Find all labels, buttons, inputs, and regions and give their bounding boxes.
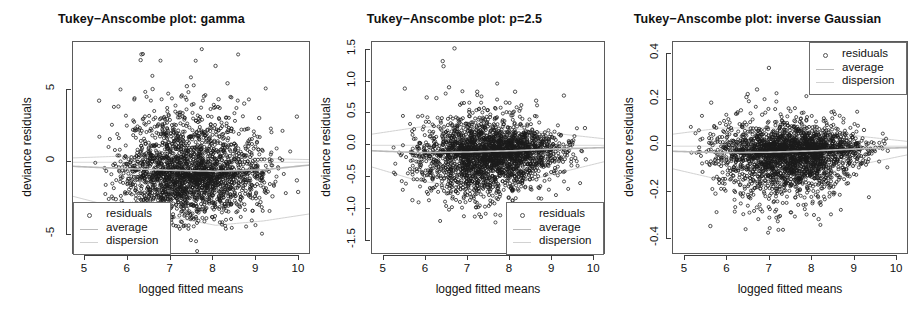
legend-label-dispersion: dispersion [842,74,894,88]
x-tick-label: 7 [452,262,482,274]
legend-key-dispersion [79,236,99,250]
plot-legend[interactable]: residualsaveragedispersion [809,42,907,95]
legend-circle-icon [87,213,92,218]
y-axis-line [66,89,67,234]
plot-panel-inverse-gaussian: Tukey−Anscombe plot: inverse Gaussian de… [606,0,909,314]
x-tick-label: 5 [69,262,99,274]
legend-key-residuals [512,209,532,223]
x-tick-label: 7 [754,262,784,274]
legend-key-residuals [79,209,99,223]
y-axis-label: deviance residuals [621,40,635,253]
legend-line-icon [513,242,531,243]
legend-key-average [815,63,835,77]
y-tick-label: -1.5 [345,222,357,254]
panel-title: Tukey−Anscombe plot: inverse Gaussian [606,12,909,26]
legend-line-icon [816,69,834,70]
x-tick-mark [298,255,299,260]
x-tick-label: 6 [112,262,142,274]
x-tick-label: 10 [578,262,608,274]
x-tick-label: 6 [410,262,440,274]
x-tick-label: 5 [669,262,699,274]
legend-labels: residualsaveragedispersion [106,207,158,248]
x-axis-line [383,255,593,256]
y-tick-mark [66,234,71,235]
x-tick-label: 10 [881,262,911,274]
legend-label-average: average [539,221,591,235]
legend-keys [79,207,99,250]
y-axis-label: deviance residuals [19,40,33,253]
plot-legend[interactable]: residualsaveragedispersion [506,202,604,255]
legend-key-average [512,223,532,237]
legend-line-icon [816,82,834,83]
residual-points [392,47,588,224]
legend-line-icon [80,229,98,230]
panel-title: Tukey−Anscombe plot: gamma [0,12,303,26]
y-tick-label: -0.2 [648,173,660,205]
y-tick-label: 0.0 [345,126,357,158]
legend-label-average: average [842,61,894,75]
legend-label-dispersion: dispersion [106,234,158,248]
legend-label-residuals: residuals [842,47,894,61]
legend-key-dispersion [512,236,532,250]
legend-keys [512,207,532,250]
legend-line-icon [80,242,98,243]
y-tick-mark [666,238,671,239]
x-axis-line [84,255,298,256]
y-tick-label: -1.0 [345,190,357,222]
legend-key-dispersion [815,76,835,90]
x-axis-label: logged fitted means [632,282,911,296]
y-axis-line [666,53,667,238]
y-tick-label: 0.5 [345,94,357,126]
legend-label-residuals: residuals [106,207,158,221]
legend-circle-icon [823,53,828,58]
y-axis-label: deviance residuals [318,40,332,253]
y-tick-label: 0 [44,143,56,175]
x-tick-label: 6 [711,262,741,274]
legend-key-average [79,223,99,237]
plot-panel-gamma: Tukey−Anscombe plot: gamma deviance resi… [0,0,303,314]
x-tick-label: 8 [197,262,227,274]
y-tick-label: 1.5 [345,31,357,63]
legend-label-average: average [106,221,158,235]
x-tick-label: 7 [155,262,185,274]
x-axis-line [684,255,896,256]
legend-keys [815,47,835,90]
y-tick-label: 1.0 [345,63,357,95]
legend-labels: residualsaveragedispersion [842,47,894,88]
legend-labels: residualsaveragedispersion [539,207,591,248]
y-tick-mark [365,240,370,241]
x-tick-label: 9 [839,262,869,274]
x-tick-label: 5 [368,262,398,274]
panel-title: Tukey−Anscombe plot: p=2.5 [303,12,606,26]
x-tick-mark [896,255,897,260]
y-tick-label: 0.2 [648,81,660,113]
y-tick-label: -0.5 [345,158,357,190]
y-tick-label: 0.4 [648,35,660,67]
x-axis-label: logged fitted means [331,282,645,296]
y-tick-label: -5 [44,216,56,248]
x-tick-label: 9 [240,262,270,274]
plot-legend[interactable]: residualsaveragedispersion [73,202,171,255]
x-tick-label: 9 [536,262,566,274]
y-tick-label: -0.4 [648,220,660,252]
plot-panel-p25: Tukey−Anscombe plot: p=2.5 deviance resi… [303,0,606,314]
figure-root: Tukey−Anscombe plot: gamma deviance resi… [0,0,911,314]
legend-label-dispersion: dispersion [539,234,591,248]
legend-circle-icon [520,213,525,218]
legend-label-residuals: residuals [539,207,591,221]
y-tick-label: 5 [44,71,56,103]
y-axis-line [365,49,366,240]
y-tick-label: 0.0 [648,127,660,159]
x-tick-label: 8 [494,262,524,274]
legend-line-icon [513,229,531,230]
x-tick-mark [593,255,594,260]
x-tick-label: 8 [796,262,826,274]
legend-key-residuals [815,49,835,63]
